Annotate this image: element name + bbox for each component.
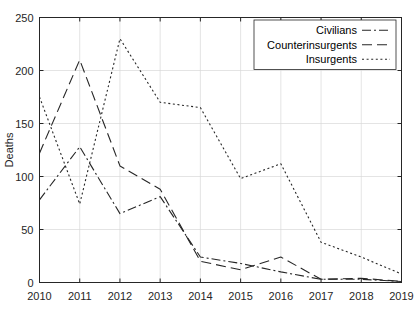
legend-label-civilians: Civilians bbox=[316, 24, 357, 36]
x-tick-label: 2013 bbox=[148, 290, 172, 302]
y-tick-label: 150 bbox=[15, 118, 33, 130]
x-tick-label: 2015 bbox=[228, 290, 252, 302]
y-tick-label: 0 bbox=[27, 277, 33, 289]
x-tick-label: 2010 bbox=[27, 290, 51, 302]
y-tick-label: 100 bbox=[15, 171, 33, 183]
x-tick-label: 2014 bbox=[188, 290, 212, 302]
x-tick-label: 2011 bbox=[68, 290, 92, 302]
deaths-by-group-line-chart: 050100150200250 201020112012201320142015… bbox=[0, 0, 416, 315]
x-tick-label: 2019 bbox=[389, 290, 413, 302]
x-tick-label: 2018 bbox=[349, 290, 373, 302]
x-tick-label: 2012 bbox=[108, 290, 132, 302]
y-tick-label: 250 bbox=[15, 12, 33, 24]
y-tick-label: 200 bbox=[15, 65, 33, 77]
legend-label-insurgents: Insurgents bbox=[306, 53, 358, 65]
y-axis-title: Deaths bbox=[3, 132, 15, 167]
y-tick-label: 50 bbox=[21, 224, 33, 236]
legend-label-counterinsurgents: Counterinsurgents bbox=[267, 39, 357, 51]
x-tick-label: 2017 bbox=[309, 290, 333, 302]
chart-legend: CiviliansCounterinsurgentsInsurgents bbox=[254, 20, 396, 70]
x-tick-label: 2016 bbox=[269, 290, 293, 302]
